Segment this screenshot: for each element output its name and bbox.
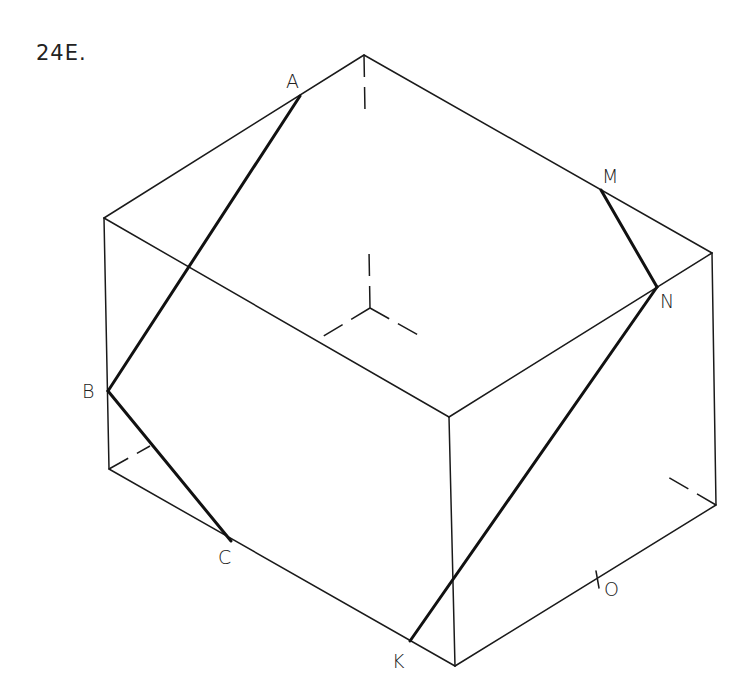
- cube-figure: [0, 0, 751, 700]
- label-b: B: [82, 382, 94, 401]
- label-k: K: [392, 652, 404, 671]
- label-n: N: [660, 292, 674, 311]
- edge-top-back-left: [104, 55, 364, 218]
- section-bc: [108, 391, 231, 541]
- section-nk: [410, 287, 657, 641]
- label-m: M: [602, 167, 618, 186]
- hidden-edge-bottom-left: [109, 446, 150, 469]
- hidden-edge-center-left: [322, 308, 370, 337]
- edge-bottom-right-front: [455, 505, 716, 666]
- section-mn: [601, 190, 657, 287]
- edge-left-vertical: [104, 218, 109, 469]
- edge-front-vertical: [449, 417, 455, 666]
- section-lines: [108, 96, 657, 641]
- hidden-edge-top-back-vertical: [364, 55, 365, 112]
- label-o: O: [604, 580, 619, 599]
- hidden-edge-center-right: [370, 308, 420, 336]
- label-c: C: [218, 548, 231, 567]
- edge-bottom-left-front: [109, 469, 455, 666]
- hidden-edge-bottom-right: [668, 477, 716, 505]
- edge-right-vertical: [712, 253, 716, 505]
- visible-edges: [104, 55, 716, 666]
- section-ab: [108, 96, 300, 391]
- diagram-canvas: 24E.: [0, 0, 751, 700]
- label-a: A: [286, 72, 299, 91]
- hidden-edges: [109, 55, 716, 505]
- hidden-edge-center-up: [369, 250, 370, 308]
- edge-top-right-front: [449, 253, 712, 417]
- edge-top-back-right: [364, 55, 712, 253]
